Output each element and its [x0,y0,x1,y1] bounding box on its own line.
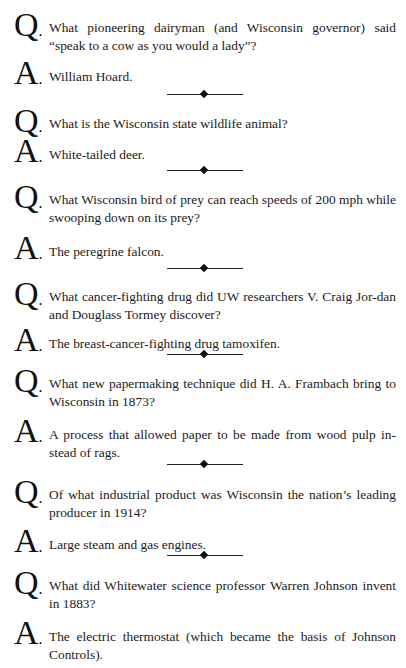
a-marker: A. [14,524,43,564]
answer-1: A. William Hoard. [14,56,396,86]
answer-3: A. The peregrine falcon. [14,231,396,261]
diamond-ornament-icon [200,551,208,559]
section-divider [167,460,243,470]
answer-text: The electric thermostat (which became th… [49,616,396,663]
answer-text: Large steam and gas engines. [49,524,396,554]
q-marker: Q. [14,475,43,515]
answer-5: A. A process that allowed paper to be ma… [14,414,396,461]
a-marker: A. [14,323,43,363]
answer-text: The breast-cancer-fighting drug tamoxife… [49,323,396,353]
question-text: What did Whitewater science professor Wa… [49,566,396,612]
answer-7: A. The electric thermostat (which became… [14,616,396,663]
question-7: Q. What did Whitewater science professor… [14,566,396,612]
question-text: What is the Wisconsin state wildlife ani… [49,104,396,133]
a-marker: A. [14,231,43,271]
trivia-page: Q. What pioneering dairyman (and Wiscons… [0,0,406,668]
question-1: Q. What pioneering dairyman (and Wiscons… [14,8,396,54]
question-text: What pioneering dairyman (and Wisconsin … [49,8,396,54]
question-5: Q. What new papermaking technique did H.… [14,364,396,410]
answer-4: A. The breast-cancer-fighting drug tamox… [14,323,396,353]
q-marker: Q. [14,180,43,220]
a-marker: A. [14,616,43,656]
diamond-ornament-icon [200,350,208,358]
section-divider [167,551,243,561]
question-text: Of what industrial product was Wisconsin… [49,475,396,521]
a-marker: A. [14,56,43,96]
q-marker: Q. [14,277,43,317]
answer-text: The peregrine falcon. [49,231,396,261]
section-divider [167,90,243,100]
answer-6: A. Large steam and gas engines. [14,524,396,554]
q-marker: Q. [14,8,43,48]
a-marker: A. [14,414,43,454]
q-marker: Q. [14,364,43,404]
diamond-ornament-icon [200,264,208,272]
question-3: Q. What Wisconsin bird of prey can reach… [14,180,396,226]
diamond-ornament-icon [200,166,208,174]
answer-text: William Hoard. [49,56,396,86]
question-text: What cancer-fighting drug did UW researc… [49,277,396,323]
question-6: Q. Of what industrial product was Wiscon… [14,475,396,521]
question-text: What Wisconsin bird of prey can reach sp… [49,180,396,226]
q-marker: Q. [14,566,43,606]
question-4: Q. What cancer-fighting drug did UW rese… [14,277,396,323]
question-text: What new papermaking technique did H. A.… [49,364,396,410]
section-divider [167,166,243,176]
diamond-ornament-icon [200,460,208,468]
answer-2: A. White-tailed deer. [14,134,396,164]
diamond-ornament-icon [200,90,208,98]
section-divider [167,350,243,360]
answer-text: A process that allowed paper to be made … [49,414,396,461]
a-marker: A. [14,134,43,174]
answer-text: White-tailed deer. [49,134,396,164]
question-2: Q. What is the Wisconsin state wildlife … [14,104,396,133]
section-divider [167,264,243,274]
